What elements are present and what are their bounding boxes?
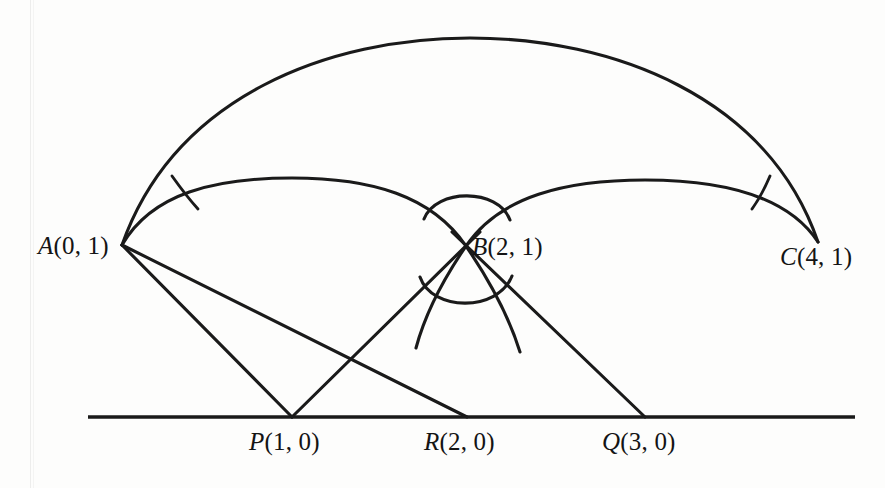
point-label-C-letter: C <box>780 243 797 270</box>
point-label-R: R(2, 0) <box>424 428 495 456</box>
point-label-R-letter: R <box>424 428 439 455</box>
point-label-C-coords: (4, 1) <box>797 243 852 270</box>
arc-a-to-b <box>122 178 466 246</box>
point-label-B-letter: B <box>472 233 487 260</box>
point-label-Q: Q(3, 0) <box>602 428 676 456</box>
arc-outer-a-to-c <box>122 38 818 245</box>
segment-a-to-p <box>122 245 292 417</box>
point-label-B: B(2, 1) <box>472 233 543 261</box>
point-label-Q-letter: Q <box>602 428 620 455</box>
segment-p-to-b <box>292 232 480 417</box>
point-label-R-coords: (2, 0) <box>439 428 494 455</box>
point-label-P-coords: (1, 0) <box>264 428 319 455</box>
point-label-A-letter: A <box>38 232 53 259</box>
point-label-P: P(1, 0) <box>249 428 320 456</box>
point-label-A: A(0, 1) <box>38 232 109 260</box>
angle-mark-at-c <box>752 176 770 209</box>
point-label-C: C(4, 1) <box>780 243 852 271</box>
point-label-P-letter: P <box>249 428 264 455</box>
point-label-B-coords: (2, 1) <box>487 233 542 260</box>
point-label-Q-coords: (3, 0) <box>620 428 675 455</box>
arc-a-to-b-continuation <box>466 246 520 352</box>
segment-a-to-r <box>122 245 467 417</box>
point-label-A-coords: (0, 1) <box>53 232 108 259</box>
figure-canvas <box>0 0 885 488</box>
geometry-figure: A(0, 1) B(2, 1) C(4, 1) P(1, 0) R(2, 0) … <box>0 0 885 488</box>
angle-mark-at-a <box>172 176 198 209</box>
